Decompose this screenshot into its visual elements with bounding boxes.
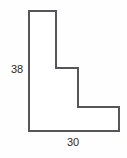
l-shaped-polygon xyxy=(29,11,119,131)
geometry-figure: 38 30 xyxy=(0,0,127,158)
height-dimension-label: 38 xyxy=(8,64,26,75)
polygon-shape-svg xyxy=(0,0,127,158)
width-dimension-label: 30 xyxy=(56,137,90,148)
